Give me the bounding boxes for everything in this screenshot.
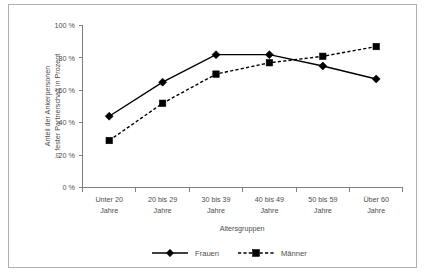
data-point-diamond — [212, 51, 220, 59]
series-frauen — [105, 51, 380, 121]
legend-marker-square-maenner — [253, 250, 260, 257]
series-männer — [106, 43, 379, 143]
x-category-label-5-line2: Jahre — [367, 206, 385, 215]
x-category-label-1-line1: 20 bis 29 — [148, 195, 177, 204]
data-point-square — [320, 53, 326, 59]
data-point-square — [373, 43, 379, 49]
data-point-diamond — [159, 78, 167, 86]
x-category-label-3-line1: 40 bis 49 — [255, 195, 284, 204]
x-category-label-2-line2: Jahre — [207, 206, 225, 215]
series-layer — [105, 43, 380, 143]
x-category-label-5-line1: Über 60 — [363, 195, 389, 204]
y-axis-title-line2: in fester Partnerschaft in Prozent — [53, 54, 62, 159]
y-axis-title-line1: Anteil der Ankerpersonen — [43, 66, 52, 147]
x-category-label-2-line1: 30 bis 39 — [201, 195, 230, 204]
legend-label-frauen: Frauen — [195, 249, 219, 258]
series-line — [109, 47, 376, 141]
legend-marker-diamond-frauen — [166, 249, 173, 257]
x-category-label-0-line1: Unter 20 — [95, 195, 123, 204]
chart-legend: Frauen Männer — [152, 249, 307, 258]
data-point-diamond — [372, 75, 380, 83]
data-point-diamond — [265, 51, 273, 59]
x-category-label-3-line2: Jahre — [260, 206, 278, 215]
y-tick-label-0: 0 % — [63, 183, 76, 192]
data-point-diamond — [105, 112, 113, 120]
x-category-label-0-line2: Jahre — [100, 206, 118, 215]
line-chart-svg: 100 % 80 % 60 % 40 % 20 % 0 % Unter 20 J… — [9, 5, 416, 267]
y-tick-label-100: 100 % — [55, 21, 76, 30]
x-category-label-4-line2: Jahre — [314, 206, 332, 215]
x-category-label-4-line1: 50 bis 59 — [308, 195, 337, 204]
data-point-square — [266, 60, 272, 66]
chart-plot-area: 100 % 80 % 60 % 40 % 20 % 0 % Unter 20 J… — [9, 5, 416, 267]
data-point-diamond — [319, 62, 327, 70]
chart-figure-frame: 100 % 80 % 60 % 40 % 20 % 0 % Unter 20 J… — [8, 4, 417, 268]
data-point-square — [213, 71, 219, 77]
series-line — [109, 55, 376, 117]
legend-label-maenner: Männer — [281, 249, 307, 258]
data-point-square — [159, 100, 165, 106]
x-category-label-1-line2: Jahre — [154, 206, 172, 215]
data-point-square — [106, 137, 112, 143]
x-axis-title: Altersgruppen — [220, 224, 265, 233]
